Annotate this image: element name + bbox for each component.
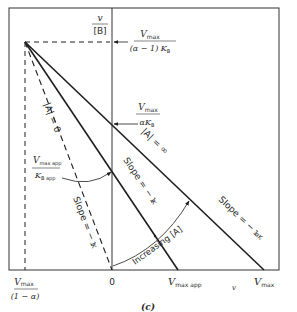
inf-intercept-numerator: Vmax bbox=[138, 102, 158, 113]
increasing-a-label: Increasing [A] bbox=[130, 224, 184, 267]
arc-dot-app bbox=[154, 235, 156, 237]
top-intercept-numerator: Vmax bbox=[140, 29, 160, 40]
app-intercept-numerator: Vmax app bbox=[33, 155, 61, 167]
top-intercept-denominator: (α − 1) KB bbox=[130, 44, 171, 54]
x-tick-vmax-app: Vmax app bbox=[168, 276, 202, 289]
y-axis-label-denominator: [B] bbox=[93, 26, 106, 36]
panel-label: (c) bbox=[141, 302, 155, 312]
diagram-canvas: v [B] Vmax (α − 1) KB Vmax αKB Vmax app … bbox=[0, 0, 297, 312]
y-axis-label-numerator: v bbox=[97, 13, 102, 23]
intercept-arrow-app bbox=[62, 172, 111, 182]
x-axis-label: v bbox=[232, 284, 236, 292]
slope-a-infinity-label: Slope = −1αK bbox=[217, 194, 267, 242]
line-a-infinity bbox=[25, 42, 264, 270]
x-tick-vmax: Vmax bbox=[254, 276, 275, 288]
x-tick-left-numerator: Vmax bbox=[14, 277, 34, 287]
app-intercept-denominator: KB app bbox=[34, 171, 55, 182]
slope-a-zero-label: Slope = −1K bbox=[71, 195, 100, 250]
line-a-zero-label: |A| = 0 bbox=[42, 101, 63, 134]
slope-a-app-label: Slope = −1K bbox=[121, 156, 160, 207]
x-tick-left-denominator: (1 − α) bbox=[11, 292, 40, 301]
x-tick-origin: 0 bbox=[109, 277, 115, 287]
line-a-infinity-label: |A| = ∞ bbox=[140, 126, 171, 156]
